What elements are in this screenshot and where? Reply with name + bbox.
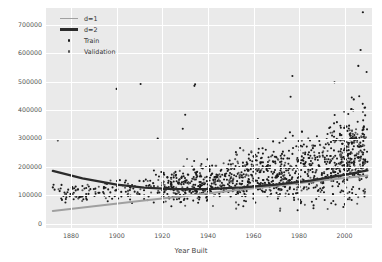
data-point-train bbox=[364, 158, 366, 160]
data-point-train bbox=[200, 175, 202, 177]
data-point-train bbox=[304, 151, 306, 153]
data-point-train bbox=[301, 155, 303, 157]
data-point-train bbox=[348, 125, 350, 127]
data-point-train bbox=[303, 157, 305, 159]
data-point-validation bbox=[256, 168, 258, 170]
data-point-train bbox=[291, 176, 293, 178]
data-point-validation bbox=[235, 208, 237, 210]
data-point-validation bbox=[235, 201, 237, 203]
data-point-train bbox=[255, 179, 257, 181]
data-point-train bbox=[363, 125, 365, 127]
data-point-train bbox=[292, 135, 294, 137]
data-point-validation bbox=[105, 197, 107, 199]
data-point-train bbox=[178, 198, 180, 200]
data-point-validation bbox=[356, 203, 358, 205]
data-point-train bbox=[341, 158, 343, 160]
data-point-train bbox=[132, 188, 134, 190]
gridline-horizontal bbox=[46, 224, 372, 225]
data-point-validation bbox=[157, 185, 159, 187]
data-point-train bbox=[329, 126, 331, 128]
data-point-validation bbox=[364, 188, 366, 190]
data-point-train bbox=[333, 149, 335, 151]
x-tick-label: 2000 bbox=[325, 233, 365, 239]
data-point-validation bbox=[353, 159, 355, 161]
data-point-train bbox=[358, 95, 360, 97]
data-point-train bbox=[193, 160, 195, 162]
data-point-train bbox=[291, 75, 293, 77]
data-point-train bbox=[221, 174, 223, 176]
data-point-train bbox=[360, 156, 362, 158]
data-point-validation bbox=[258, 168, 260, 170]
data-point-train bbox=[240, 171, 242, 173]
legend-item[interactable]: Train bbox=[57, 35, 139, 46]
data-point-validation bbox=[296, 189, 298, 191]
legend-item[interactable]: d=2 bbox=[57, 24, 139, 35]
data-point-train bbox=[357, 121, 359, 123]
data-point-train bbox=[261, 189, 263, 191]
data-point-validation bbox=[320, 191, 322, 193]
legend-line-swatch-icon bbox=[57, 18, 81, 20]
data-point-validation bbox=[199, 172, 201, 174]
data-point-train bbox=[292, 147, 294, 149]
data-point-train bbox=[329, 162, 331, 164]
data-point-train bbox=[227, 163, 229, 165]
data-point-train bbox=[152, 182, 154, 184]
data-point-train bbox=[248, 181, 250, 183]
data-point-validation bbox=[109, 179, 111, 181]
data-point-train bbox=[334, 114, 336, 116]
data-point-validation bbox=[170, 178, 172, 180]
data-point-train bbox=[262, 161, 264, 163]
data-point-validation bbox=[270, 155, 272, 157]
data-point-train bbox=[180, 177, 182, 179]
data-point-train bbox=[291, 153, 293, 155]
chart-legend: d=1d=2TrainValidation bbox=[57, 11, 139, 59]
data-point-train bbox=[258, 148, 260, 150]
data-point-train bbox=[339, 134, 341, 136]
data-point-train bbox=[293, 197, 295, 199]
data-point-train bbox=[211, 173, 213, 175]
gridline-horizontal bbox=[46, 167, 372, 168]
data-point-train bbox=[313, 204, 315, 206]
data-point-validation bbox=[244, 176, 246, 178]
data-point-train bbox=[129, 199, 131, 201]
data-point-validation bbox=[228, 179, 230, 181]
data-point-train bbox=[212, 179, 214, 181]
data-point-train bbox=[60, 197, 62, 199]
data-point-train bbox=[173, 199, 175, 201]
data-point-train bbox=[272, 160, 274, 162]
data-point-train bbox=[176, 198, 178, 200]
legend-line-swatch-icon bbox=[57, 28, 81, 30]
data-point-validation bbox=[280, 173, 282, 175]
data-point-validation bbox=[250, 150, 252, 152]
data-point-train bbox=[81, 185, 83, 187]
data-point-train bbox=[235, 151, 237, 153]
data-point-train bbox=[334, 162, 336, 164]
gridline-horizontal bbox=[46, 195, 372, 196]
data-point-train bbox=[266, 169, 268, 171]
data-point-train bbox=[351, 188, 353, 190]
data-point-validation bbox=[323, 171, 325, 173]
data-point-train bbox=[366, 161, 368, 163]
data-point-validation bbox=[218, 180, 220, 182]
data-point-train bbox=[200, 185, 202, 187]
data-point-train bbox=[65, 198, 67, 200]
data-point-train bbox=[124, 181, 126, 183]
legend-item[interactable]: d=1 bbox=[57, 13, 139, 24]
data-point-train bbox=[157, 192, 159, 194]
data-point-validation bbox=[329, 159, 331, 161]
data-point-validation bbox=[212, 205, 214, 207]
legend-label: Validation bbox=[84, 48, 116, 56]
data-point-train bbox=[308, 151, 310, 153]
data-point-validation bbox=[268, 159, 270, 161]
data-point-validation bbox=[334, 141, 336, 143]
data-point-train bbox=[337, 173, 339, 175]
data-point-validation bbox=[179, 183, 181, 185]
data-point-train bbox=[228, 175, 230, 177]
data-point-validation bbox=[184, 205, 186, 207]
data-point-validation bbox=[87, 184, 89, 186]
data-point-validation bbox=[213, 183, 215, 185]
y-tick-label: 200000 bbox=[0, 164, 42, 170]
data-point-train bbox=[307, 154, 309, 156]
data-point-validation bbox=[342, 161, 344, 163]
legend-item[interactable]: Validation bbox=[57, 46, 139, 57]
